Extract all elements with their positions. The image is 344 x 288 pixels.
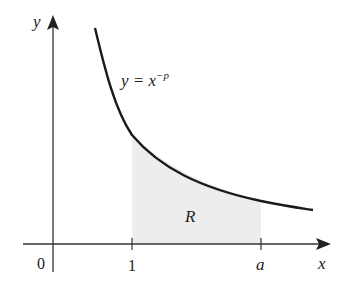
improper-integral-diagram: y x 0 1 a R y = x−p [0, 0, 344, 288]
curve-label: y = x−p [121, 70, 169, 89]
y-axis-label: y [33, 13, 41, 30]
region-label: R [185, 208, 195, 225]
x-axis-label: x [318, 255, 326, 272]
tick-label-a: a [256, 256, 265, 273]
diagram-canvas [0, 0, 344, 288]
tick-label-1: 1 [128, 258, 136, 274]
curve-label-exponent: −p [156, 69, 169, 81]
region-r [132, 135, 261, 244]
origin-label: 0 [37, 256, 45, 272]
curve-label-base: y = x [121, 71, 156, 90]
